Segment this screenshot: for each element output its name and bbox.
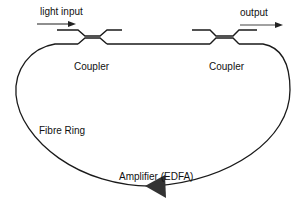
right-coupler-label: Coupler bbox=[209, 62, 244, 72]
fibre-ring bbox=[16, 44, 290, 186]
left-coupler bbox=[57, 30, 122, 44]
ring-label: Fibre Ring bbox=[39, 126, 85, 136]
left-coupler-label: Coupler bbox=[74, 62, 109, 72]
output-arrow-icon bbox=[240, 22, 283, 28]
input-arrow-icon bbox=[37, 21, 76, 27]
output-label: output bbox=[240, 8, 268, 18]
amplifier-label: Amplifier (EDFA) bbox=[119, 172, 193, 182]
right-coupler bbox=[192, 30, 257, 44]
input-label: light input bbox=[40, 7, 83, 17]
